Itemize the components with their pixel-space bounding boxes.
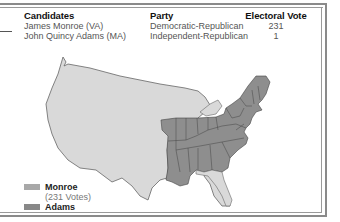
legend-label: Monroe	[45, 182, 78, 192]
legend-label: Adams	[45, 202, 75, 212]
legend-sublabel: (231 Votes)	[45, 192, 91, 202]
adams-swatch	[24, 204, 40, 210]
monroe-swatch	[24, 184, 40, 190]
